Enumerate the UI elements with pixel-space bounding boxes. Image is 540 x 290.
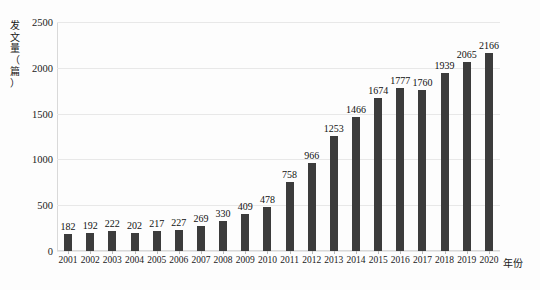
x-tick-label: 2009 xyxy=(234,255,256,265)
bar xyxy=(175,230,183,251)
x-tick-mark xyxy=(445,251,446,254)
x-tick-mark xyxy=(400,251,401,254)
x-tick-label: 2003 xyxy=(101,255,123,265)
bar-value-label: 1777 xyxy=(390,75,410,86)
x-tick-label: 2006 xyxy=(168,255,190,265)
bar xyxy=(263,207,271,251)
x-axis-title: 年份 xyxy=(503,255,523,270)
y-tick-label: 2500 xyxy=(21,17,53,28)
x-tick-label: 2010 xyxy=(256,255,278,265)
bar-group: 1466 xyxy=(345,22,367,251)
bar-chart: 发 文 量 （ 篇 ） 05001000150020002500 1821922… xyxy=(0,0,540,290)
x-tick-mark xyxy=(68,251,69,254)
y-tick-label: 500 xyxy=(21,200,53,211)
x-tick-label: 2004 xyxy=(123,255,145,265)
x-tick-label: 2015 xyxy=(367,255,389,265)
bar-group: 478 xyxy=(256,22,278,251)
bar-value-label: 478 xyxy=(260,194,275,205)
x-tick-mark xyxy=(135,251,136,254)
bar xyxy=(197,226,205,251)
x-tick-label: 2016 xyxy=(389,255,411,265)
bar-group: 330 xyxy=(212,22,234,251)
bar-group: 1939 xyxy=(434,22,456,251)
bars-layer: 1821922222022172272693304094787589661253… xyxy=(57,22,500,251)
bar-value-label: 1674 xyxy=(368,85,388,96)
bar-value-label: 222 xyxy=(105,218,120,229)
bar-group: 1674 xyxy=(367,22,389,251)
bar-value-label: 227 xyxy=(171,217,186,228)
x-tick-label: 2002 xyxy=(79,255,101,265)
y-axis-ticks: 05001000150020002500 xyxy=(19,22,53,251)
bar xyxy=(241,214,249,251)
bar-group: 1253 xyxy=(323,22,345,251)
y-tick-label: 1500 xyxy=(21,108,53,119)
bar-group: 269 xyxy=(190,22,212,251)
bar-group: 217 xyxy=(146,22,168,251)
bar-value-label: 330 xyxy=(216,208,231,219)
bar xyxy=(441,73,449,251)
bar xyxy=(108,231,116,251)
x-tick-label: 2011 xyxy=(279,255,301,265)
bar xyxy=(219,221,227,251)
bar-group: 182 xyxy=(57,22,79,251)
x-tick-label: 2008 xyxy=(212,255,234,265)
bar xyxy=(352,117,360,251)
x-tick-mark xyxy=(356,251,357,254)
bar-group: 202 xyxy=(123,22,145,251)
bar xyxy=(463,62,471,251)
x-tick-label: 2013 xyxy=(323,255,345,265)
x-tick-label: 2007 xyxy=(190,255,212,265)
bar xyxy=(374,98,382,251)
bar-group: 409 xyxy=(234,22,256,251)
bar-group: 227 xyxy=(168,22,190,251)
x-tick-mark xyxy=(179,251,180,254)
bar-group: 758 xyxy=(279,22,301,251)
bar-group: 966 xyxy=(301,22,323,251)
bar xyxy=(131,233,139,252)
bar-value-label: 1939 xyxy=(435,60,455,71)
bar xyxy=(64,234,72,251)
bar-value-label: 1760 xyxy=(412,77,432,88)
x-tick-mark xyxy=(334,251,335,254)
bar xyxy=(485,53,493,251)
x-tick-mark xyxy=(267,251,268,254)
bar-group: 192 xyxy=(79,22,101,251)
bar-value-label: 192 xyxy=(83,220,98,231)
bar-value-label: 1253 xyxy=(324,123,344,134)
x-tick-label: 2018 xyxy=(434,255,456,265)
x-tick-mark xyxy=(112,251,113,254)
x-tick-mark xyxy=(312,251,313,254)
x-tick-label: 2012 xyxy=(301,255,323,265)
bar xyxy=(286,182,294,251)
x-tick-mark xyxy=(489,251,490,254)
bar-value-label: 217 xyxy=(149,218,164,229)
x-tick-mark xyxy=(201,251,202,254)
bar-group: 1777 xyxy=(389,22,411,251)
x-tick-mark xyxy=(90,251,91,254)
bar xyxy=(330,136,338,251)
bar-value-label: 182 xyxy=(61,221,76,232)
bar-value-label: 966 xyxy=(304,150,319,161)
x-tick-mark xyxy=(245,251,246,254)
x-tick-label: 2001 xyxy=(57,255,79,265)
x-tick-label: 2019 xyxy=(456,255,478,265)
bar-value-label: 202 xyxy=(127,220,142,231)
bar-value-label: 409 xyxy=(238,201,253,212)
bar-group: 2166 xyxy=(478,22,500,251)
bar xyxy=(396,88,404,251)
y-tick-label: 2000 xyxy=(21,62,53,73)
bar xyxy=(308,163,316,251)
bar-value-label: 2065 xyxy=(457,49,477,60)
bar xyxy=(418,90,426,251)
bar-group: 1760 xyxy=(411,22,433,251)
y-tick-label: 0 xyxy=(21,246,53,257)
x-tick-mark xyxy=(467,251,468,254)
bar-value-label: 1466 xyxy=(346,104,366,115)
bar-group: 2065 xyxy=(456,22,478,251)
bar xyxy=(86,233,94,251)
x-tick-mark xyxy=(422,251,423,254)
bar-value-label: 758 xyxy=(282,169,297,180)
x-tick-mark xyxy=(378,251,379,254)
x-tick-label: 2005 xyxy=(146,255,168,265)
x-tick-mark xyxy=(157,251,158,254)
